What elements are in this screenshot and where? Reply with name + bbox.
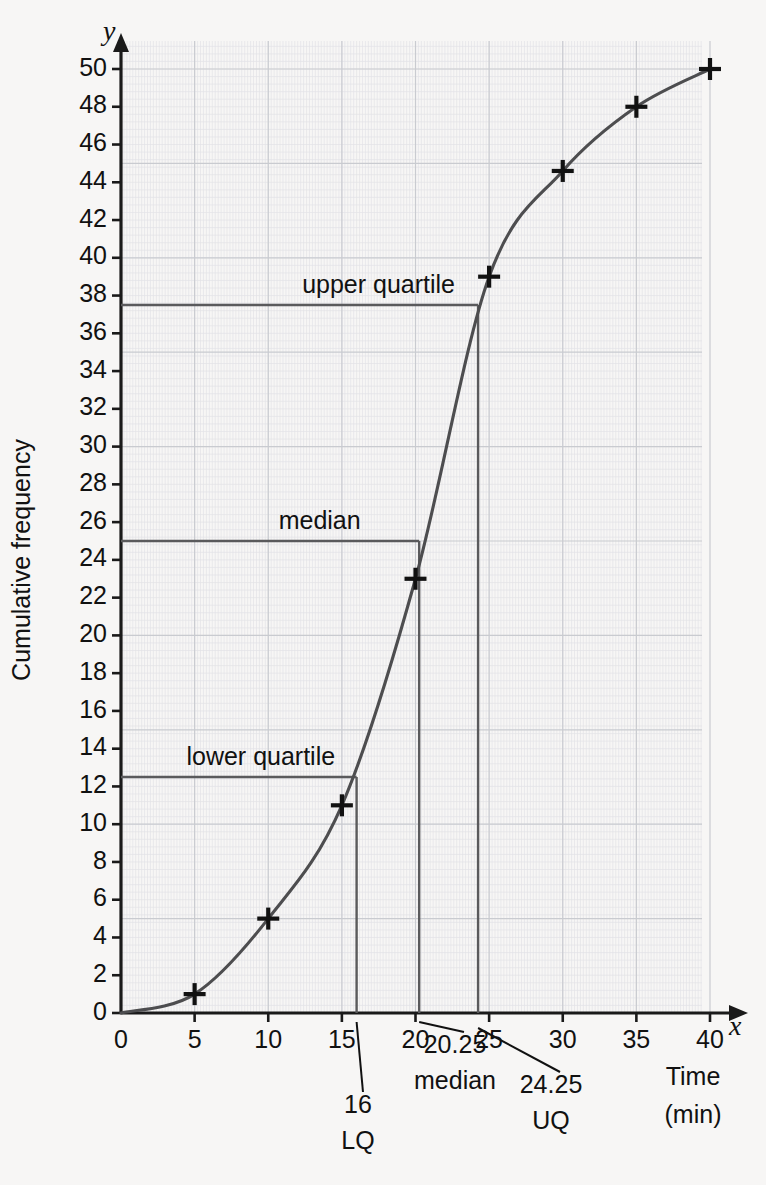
y-tick-label: 8: [93, 846, 107, 874]
y-tick-label: 36: [79, 317, 107, 345]
y-axis-variable-letter: y: [100, 15, 116, 46]
y-tick-label: 40: [79, 241, 107, 269]
y-tick-label: 14: [79, 732, 107, 760]
y-tick-label: 50: [79, 53, 107, 81]
y-tick-label: 28: [79, 468, 107, 496]
y-tick-label: 12: [79, 770, 107, 798]
x-tick-label: 35: [622, 1025, 650, 1053]
x-axis-variable-letter: x: [728, 1010, 742, 1041]
value-sub-median: median: [414, 1066, 496, 1094]
x-axis-title-line-2: (min): [665, 1100, 722, 1128]
y-tick-label: 44: [79, 166, 107, 194]
guide-label-median: median: [279, 506, 361, 534]
value-sub-lower-quartile: LQ: [341, 1126, 374, 1154]
y-tick-label: 32: [79, 392, 107, 420]
y-tick-label: 26: [79, 506, 107, 534]
y-tick-label: 6: [93, 883, 107, 911]
y-tick-label: 4: [93, 921, 107, 949]
y-tick-label: 24: [79, 543, 107, 571]
cumulative-frequency-chart: 0246810121416182022242628303234363840424…: [0, 0, 766, 1185]
x-tick-label: 5: [188, 1025, 202, 1053]
x-tick-label: 15: [328, 1025, 356, 1053]
y-tick-label: 38: [79, 279, 107, 307]
y-axis-title: Cumulative frequency: [7, 439, 35, 681]
chart-canvas: 0246810121416182022242628303234363840424…: [0, 0, 766, 1185]
y-tick-label: 10: [79, 808, 107, 836]
value-lower-quartile: 16: [344, 1090, 372, 1118]
guide-label-upper-quartile: upper quartile: [302, 270, 455, 298]
value-median: 20.25: [424, 1030, 487, 1058]
y-tick-label: 22: [79, 581, 107, 609]
y-tick-label: 34: [79, 355, 107, 383]
guide-label-lower-quartile: lower quartile: [186, 742, 335, 770]
y-tick-label: 30: [79, 430, 107, 458]
value-upper-quartile: 24.25: [520, 1070, 583, 1098]
x-tick-label: 10: [254, 1025, 282, 1053]
y-tick-label: 48: [79, 90, 107, 118]
x-axis-title-line-1: Time: [666, 1062, 721, 1090]
x-tick-label: 0: [114, 1025, 128, 1053]
x-tick-label: 40: [696, 1025, 724, 1053]
y-tick-label: 42: [79, 204, 107, 232]
y-tick-label: 16: [79, 695, 107, 723]
x-tick-label: 30: [549, 1025, 577, 1053]
value-sub-upper-quartile: UQ: [532, 1106, 570, 1134]
y-tick-label: 18: [79, 657, 107, 685]
y-tick-label: 2: [93, 959, 107, 987]
y-tick-label: 0: [93, 997, 107, 1025]
y-tick-label: 46: [79, 128, 107, 156]
y-tick-label: 20: [79, 619, 107, 647]
